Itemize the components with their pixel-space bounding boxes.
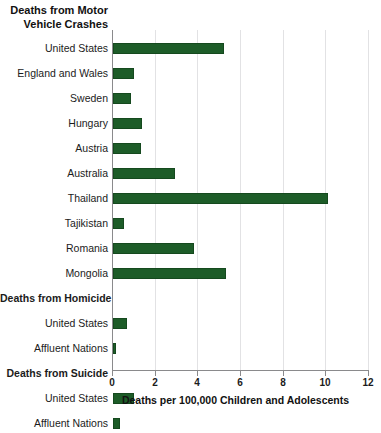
- bar: [113, 418, 120, 429]
- category-label: England and Wales: [0, 61, 108, 86]
- bar: [113, 318, 127, 329]
- chart-row: Mongolia: [0, 261, 381, 286]
- chart-row: England and Wales: [0, 61, 381, 86]
- chart-title: Deaths from Motor Vehicle Crashes: [0, 4, 108, 31]
- section-header-row: Deaths from Homicide: [0, 286, 381, 311]
- chart-row: Thailand: [0, 186, 381, 211]
- category-label: United States: [0, 311, 108, 336]
- bar: [113, 168, 175, 179]
- section-header-row: Deaths from Suicide: [0, 361, 381, 386]
- bar: [113, 143, 141, 154]
- chart-row: Hungary: [0, 111, 381, 136]
- chart-row: Affluent Nations: [0, 411, 381, 433]
- category-label: Thailand: [0, 186, 108, 211]
- bar: [113, 193, 328, 204]
- category-label: Tajikistan: [0, 211, 108, 236]
- category-label: Austria: [0, 136, 108, 161]
- category-label: United States: [0, 36, 108, 61]
- bar: [113, 268, 226, 279]
- bar: [113, 43, 224, 54]
- category-label: Sweden: [0, 86, 108, 111]
- category-label: Affluent Nations: [0, 336, 108, 361]
- chart-row: Sweden: [0, 86, 381, 111]
- chart-row: Australia: [0, 161, 381, 186]
- bar: [113, 243, 194, 254]
- category-label: Mongolia: [0, 261, 108, 286]
- category-label: Australia: [0, 161, 108, 186]
- category-label: Romania: [0, 236, 108, 261]
- section-header-label: Deaths from Suicide: [0, 361, 108, 386]
- category-label: Hungary: [0, 111, 108, 136]
- chart-row: Tajikistan: [0, 211, 381, 236]
- chart-title-line-2: Vehicle Crashes: [0, 18, 108, 32]
- chart-row: Romania: [0, 236, 381, 261]
- bar: [113, 343, 116, 354]
- chart-row: United States: [0, 36, 381, 61]
- bar: [113, 68, 134, 79]
- bar: [113, 118, 142, 129]
- category-label: Affluent Nations: [0, 411, 108, 433]
- chart-row: Affluent Nations: [0, 336, 381, 361]
- chart-title-line-1: Deaths from Motor: [0, 4, 108, 18]
- x-axis-title: Deaths per 100,000 Children and Adolesce…: [0, 394, 381, 406]
- section-header-label: Deaths from Homicide: [0, 286, 108, 311]
- chart-row: United States: [0, 311, 381, 336]
- chart-row: Austria: [0, 136, 381, 161]
- bar: [113, 93, 131, 104]
- bar: [113, 218, 124, 229]
